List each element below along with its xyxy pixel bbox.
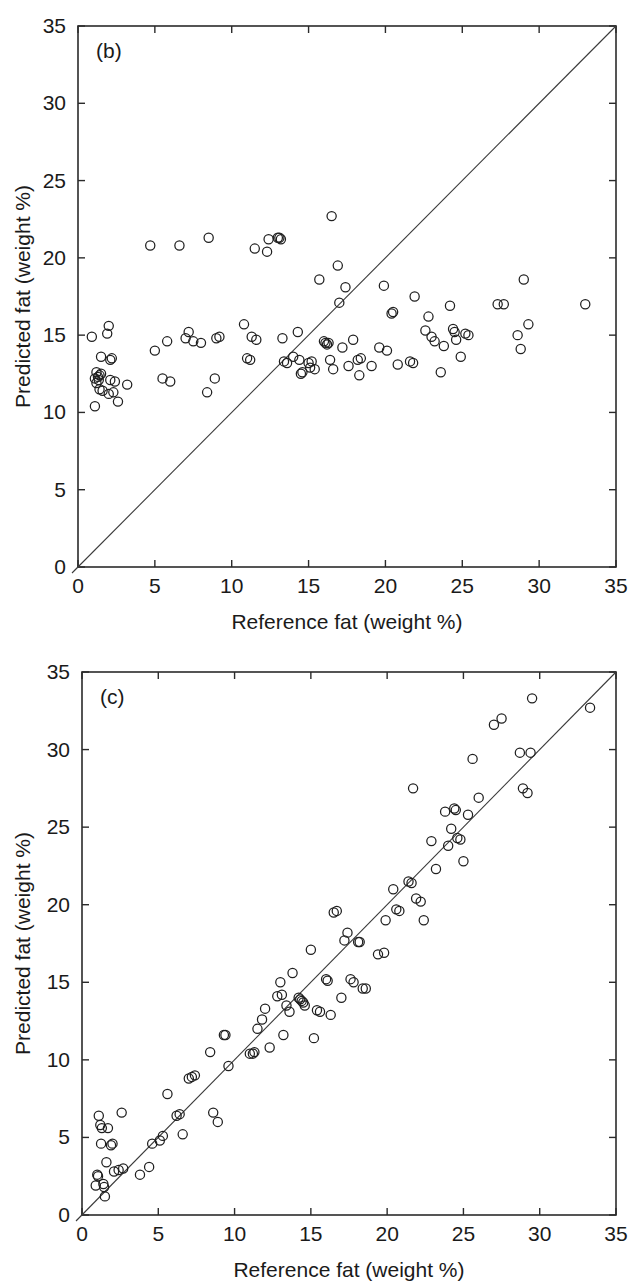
y-tick-label: 30: [43, 91, 66, 114]
data-point: [456, 835, 465, 844]
y-tick-label: 25: [47, 815, 70, 838]
x-tick-label: 35: [604, 574, 627, 597]
data-point: [393, 360, 402, 369]
data-point: [175, 241, 184, 250]
data-point: [408, 784, 417, 793]
data-point: [382, 346, 391, 355]
data-point: [424, 312, 433, 321]
data-point: [441, 807, 450, 816]
y-axis-title: Predicted fat (weight %): [11, 832, 34, 1055]
data-point: [427, 837, 436, 846]
x-tick-label: 35: [604, 1222, 627, 1245]
y-tick-label: 20: [43, 246, 66, 269]
data-point: [175, 1110, 184, 1119]
data-point: [489, 720, 498, 729]
data-point: [306, 945, 315, 954]
data-point: [250, 244, 259, 253]
data-point: [206, 1048, 215, 1057]
data-point: [356, 354, 365, 363]
data-point: [335, 298, 344, 307]
data-point: [459, 857, 468, 866]
data-point: [253, 1024, 262, 1033]
data-point: [519, 275, 528, 284]
data-point: [349, 335, 358, 344]
panel-b-plot-area: 0510152025303505101520253035(b)Reference…: [11, 14, 628, 633]
data-point: [445, 301, 454, 310]
data-point: [96, 1139, 105, 1148]
figure-scatter-panels: 0510152025303505101520253035(b)Reference…: [0, 0, 631, 1281]
x-tick-label: 20: [375, 1222, 398, 1245]
data-point: [515, 748, 524, 757]
data-point: [463, 810, 472, 819]
data-point: [409, 358, 418, 367]
data-point: [117, 1108, 126, 1117]
x-tick-label: 15: [299, 1222, 322, 1245]
data-points: [87, 212, 590, 411]
x-tick-label: 10: [220, 574, 243, 597]
y-tick-label: 25: [43, 169, 66, 192]
data-point: [113, 397, 122, 406]
data-point: [329, 365, 338, 374]
x-tick-label: 10: [223, 1222, 246, 1245]
data-point: [337, 993, 346, 1002]
data-point: [262, 247, 271, 256]
x-tick-label: 30: [528, 1222, 551, 1245]
y-tick-label: 10: [47, 1048, 70, 1071]
data-point: [419, 916, 428, 925]
data-point: [379, 281, 388, 290]
data-point: [163, 337, 172, 346]
x-tick-label: 0: [76, 1222, 88, 1245]
data-point: [526, 748, 535, 757]
data-point: [215, 332, 224, 341]
data-point: [513, 331, 522, 340]
data-point: [315, 1007, 324, 1016]
x-tick-label: 15: [297, 574, 320, 597]
data-point: [436, 368, 445, 377]
x-tick-label: 5: [149, 574, 161, 597]
data-point: [210, 374, 219, 383]
data-point: [395, 906, 404, 915]
data-point: [527, 694, 536, 703]
data-point: [264, 235, 273, 244]
data-point: [468, 754, 477, 763]
data-point: [327, 212, 336, 221]
data-point: [288, 968, 297, 977]
data-point: [123, 380, 132, 389]
data-point: [326, 1010, 335, 1019]
x-tick-label: 25: [451, 574, 474, 597]
data-point: [102, 1158, 111, 1167]
y-tick-label: 0: [58, 1203, 70, 1226]
data-point: [135, 1170, 144, 1179]
x-tick-label: 0: [72, 574, 84, 597]
data-point: [355, 371, 364, 380]
data-point: [325, 355, 334, 364]
data-point: [379, 948, 388, 957]
data-point: [163, 1089, 172, 1098]
data-point: [213, 1117, 222, 1126]
panel-b-svg: 0510152025303505101520253035(b)Reference…: [0, 0, 631, 640]
data-point: [239, 320, 248, 329]
data-point: [145, 1162, 154, 1171]
x-tick-label: 25: [452, 1222, 475, 1245]
data-point: [279, 1030, 288, 1039]
data-point: [344, 361, 353, 370]
y-tick-label: 10: [43, 400, 66, 423]
data-point: [431, 864, 440, 873]
data-point: [338, 343, 347, 352]
data-point: [373, 950, 382, 959]
y-tick-label: 35: [47, 660, 70, 683]
y-tick-label: 5: [58, 1125, 70, 1148]
y-tick-label: 15: [47, 970, 70, 993]
data-point: [103, 1124, 112, 1133]
panel-c: 0510152025303505101520253035(c)Reference…: [0, 640, 631, 1281]
panel-c-plot-area: 0510152025303505101520253035(c)Reference…: [11, 660, 628, 1281]
panel-b: 0510152025303505101520253035(b)Reference…: [0, 0, 631, 640]
data-point: [464, 331, 473, 340]
data-point: [585, 703, 594, 712]
identity-reference-line: [72, 26, 616, 573]
data-point: [146, 241, 155, 250]
data-point: [87, 332, 96, 341]
y-axis-title: Predicted fat (weight %): [11, 185, 34, 408]
x-axis-title: Reference fat (weight %): [233, 1258, 464, 1281]
data-point: [381, 916, 390, 925]
